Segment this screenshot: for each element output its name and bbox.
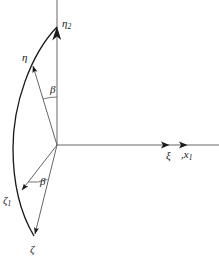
label-zeta: ζ <box>30 244 34 255</box>
diagram-canvas <box>0 0 219 265</box>
label-xi: ξ <box>166 150 171 161</box>
label-zeta1-subscript: 1 <box>7 199 11 208</box>
label-beta-lower: β <box>40 176 45 187</box>
label-xi-base: ξ <box>166 149 171 161</box>
zeta-vector <box>35 145 57 234</box>
label-eta2: η2 <box>62 18 71 29</box>
label-x1-base: x <box>184 148 189 160</box>
eta-vector <box>33 66 57 145</box>
label-zeta1: ζ1 <box>3 195 11 206</box>
label-x1: ,x1 <box>181 149 192 160</box>
label-x1-subscript: 1 <box>189 153 193 162</box>
coordinate-rotation-diagram: η2 η β β ζ1 ζ ξ ,x1 <box>0 0 219 265</box>
label-eta: η <box>22 52 27 63</box>
label-eta2-subscript: 2 <box>67 22 71 31</box>
beta-angle-arc-upper <box>43 97 57 99</box>
label-beta-upper: β <box>50 84 55 95</box>
curved-boundary-arc <box>13 27 57 236</box>
